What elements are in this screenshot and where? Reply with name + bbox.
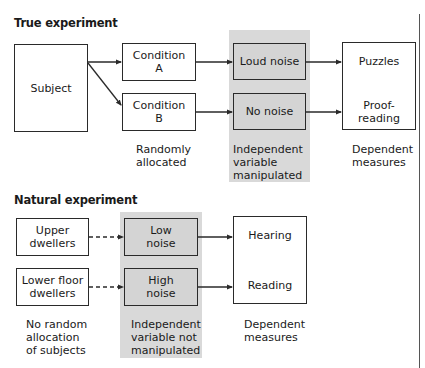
connector-arrows xyxy=(0,0,425,368)
page-margin-rule xyxy=(419,14,420,368)
